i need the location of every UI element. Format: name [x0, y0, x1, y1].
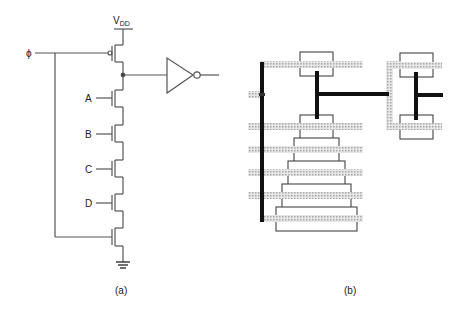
- diffusion-boxes: [276, 52, 433, 231]
- poly-strips: [248, 61, 442, 222]
- figure-canvas: VDD ϕ A B C D (a): [0, 0, 464, 313]
- poly-strip-a: [248, 123, 363, 130]
- poly-strip-evaluate: [264, 215, 363, 222]
- ground-icon: [116, 262, 130, 268]
- clock-label: ϕ: [26, 48, 32, 59]
- panel-b-layout: [248, 52, 443, 231]
- poly-strip-inverter-top: [386, 62, 442, 69]
- metal-inverter-drain: [414, 72, 418, 120]
- vdd-label: VDD: [113, 15, 130, 27]
- metal-output-node: [315, 71, 319, 119]
- pmos-transistor: [108, 45, 123, 62]
- nmos-transistor-evaluate: [112, 228, 123, 262]
- nmos-transistor-a: [96, 90, 123, 125]
- nmos-transistor-d: [96, 194, 123, 228]
- nmos-transistor-c: [96, 160, 123, 194]
- poly-strip-b: [248, 146, 363, 153]
- poly-strip-clock-top: [261, 61, 363, 68]
- poly-strip-inverter-bottom: [386, 123, 442, 130]
- metal-inverter-output: [418, 93, 443, 97]
- nmos-transistor-b: [96, 125, 123, 160]
- metal-clock-rail: [260, 62, 264, 222]
- input-label-d: D: [85, 198, 92, 209]
- input-label-b: B: [85, 129, 92, 140]
- poly-strip-c: [248, 169, 363, 176]
- input-label-c: C: [85, 164, 92, 175]
- poly-strip-d: [248, 192, 363, 199]
- caption-a: (a): [115, 285, 127, 296]
- input-label-a: A: [85, 93, 92, 104]
- caption-b: (b): [344, 285, 356, 296]
- inverter-bubble: [194, 72, 200, 78]
- metal-to-inverter: [319, 92, 389, 96]
- panel-a-circuit: [35, 29, 219, 268]
- inverter: [167, 58, 193, 93]
